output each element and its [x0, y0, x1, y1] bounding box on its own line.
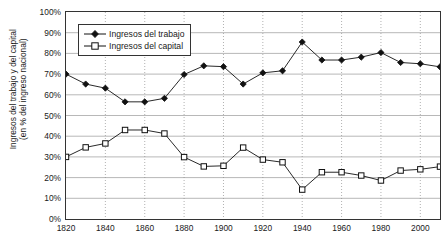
x-tick-label: 2000	[398, 224, 442, 232]
data-point-diamond	[437, 64, 440, 70]
x-tick-label: 1840	[83, 224, 127, 232]
plot-area: Ingresos del trabajo Ingresos del capita…	[65, 11, 441, 220]
data-point-square	[418, 167, 423, 172]
data-point-diamond	[358, 54, 364, 60]
data-point-square	[122, 127, 127, 132]
series-capital	[66, 127, 440, 192]
data-point-diamond	[417, 61, 423, 67]
y-tick-label: 0%	[23, 215, 61, 223]
data-point-diamond	[66, 71, 69, 77]
x-tick-label: 1820	[44, 224, 88, 232]
legend-label-labor: Ingresos del trabajo	[107, 28, 184, 40]
x-tick-label: 1900	[201, 224, 245, 232]
data-point-diamond	[83, 81, 89, 87]
x-tick-label: 1860	[123, 224, 167, 232]
x-tick-label: 1980	[359, 224, 403, 232]
legend-marker-filled-diamond	[83, 28, 107, 40]
x-tick-label: 1880	[162, 224, 206, 232]
data-point-square	[378, 178, 383, 183]
data-point-diamond	[122, 99, 128, 105]
data-point-square	[221, 163, 226, 168]
chart-figure: Ingresos del trabajo y del capital (en %…	[0, 0, 448, 247]
legend-label-capital: Ingresos del capital	[107, 40, 183, 52]
data-point-square	[83, 145, 88, 150]
y-tick-label: 60%	[23, 91, 61, 99]
data-point-square	[66, 154, 69, 159]
y-tick-label: 80%	[23, 49, 61, 57]
data-point-square	[240, 145, 245, 150]
data-point-diamond	[142, 99, 148, 105]
data-point-square	[142, 127, 147, 132]
data-point-diamond	[279, 68, 285, 74]
x-axis-tick-labels: 1820184018601880190019201940196019802000	[0, 224, 448, 240]
x-tick-label: 1960	[320, 224, 364, 232]
y-tick-label: 50%	[23, 112, 61, 120]
y-tick-label: 100%	[23, 8, 61, 16]
data-point-square	[103, 141, 108, 146]
legend-item-capital[interactable]: Ingresos del capital	[83, 40, 184, 52]
y-tick-label: 30%	[23, 153, 61, 161]
data-point-square	[280, 160, 285, 165]
data-point-square	[437, 164, 440, 169]
chart-legend: Ingresos del trabajo Ingresos del capita…	[78, 24, 191, 56]
y-tick-label: 90%	[23, 29, 61, 37]
x-tick-label: 1920	[241, 224, 285, 232]
data-point-square	[181, 154, 186, 159]
x-tick-label: 1940	[280, 224, 324, 232]
data-point-diamond	[378, 49, 384, 55]
y-tick-label: 10%	[23, 194, 61, 202]
data-point-square	[260, 157, 265, 162]
y-axis-tick-labels: 0%10%20%30%40%50%60%70%80%90%100%	[21, 0, 61, 247]
data-point-square	[319, 170, 324, 175]
legend-marker-open-square	[83, 40, 107, 52]
data-point-diamond	[260, 70, 266, 76]
data-point-square	[339, 170, 344, 175]
y-tick-label: 70%	[23, 70, 61, 78]
data-point-square	[398, 168, 403, 173]
data-point-square	[162, 131, 167, 136]
data-point-square	[201, 164, 206, 169]
data-point-diamond	[102, 85, 108, 91]
data-point-square	[359, 173, 364, 178]
data-point-diamond	[398, 59, 404, 65]
legend-item-labor[interactable]: Ingresos del trabajo	[83, 28, 184, 40]
data-point-square	[300, 187, 305, 192]
y-tick-label: 20%	[23, 174, 61, 182]
data-point-diamond	[338, 57, 344, 63]
data-point-diamond	[201, 63, 207, 69]
y-tick-label: 40%	[23, 132, 61, 140]
